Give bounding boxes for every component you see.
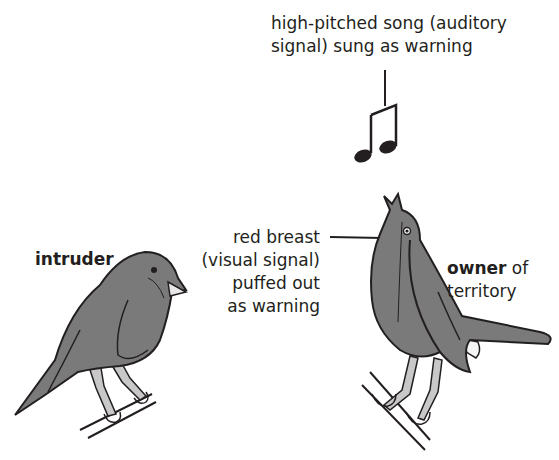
owner-label-rest: of [506,258,528,278]
breast-label-line-3: puffed out [200,272,320,295]
song-label: high-pitched song (auditory signal) sung… [271,12,507,58]
owner-bird [362,194,551,450]
diagram-canvas: high-pitched song (auditory signal) sung… [0,0,559,460]
intruder-label: intruder [35,248,114,271]
owner-label-bold: owner [447,258,506,278]
breast-pointer-line [330,237,383,238]
music-note-icon [352,105,398,165]
song-label-line-1: high-pitched song (auditory [271,12,507,35]
breast-label-line-1: red breast [200,226,320,249]
owner-label: owner of territory [447,257,528,303]
breast-label: red breast (visual signal) puffed out as… [200,226,320,318]
breast-label-line-2: (visual signal) [200,249,320,272]
owner-label-line-2: territory [447,280,528,303]
song-label-line-2: signal) sung as warning [271,35,507,58]
intruder-bird [15,252,186,438]
breast-label-line-4: as warning [200,295,320,318]
